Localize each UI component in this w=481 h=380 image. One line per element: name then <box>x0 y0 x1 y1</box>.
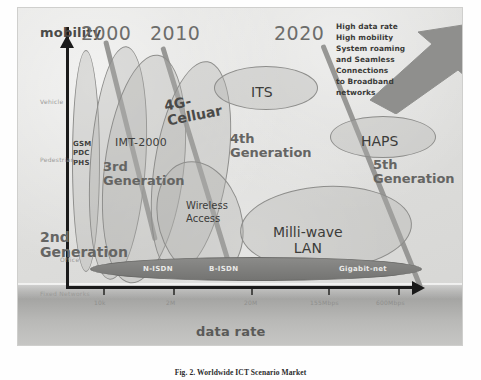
year-label-2020: 2020 <box>274 22 324 44</box>
tech-label-gsm-pdc-phs: GSM PDC PHS <box>73 140 91 168</box>
year-label-2000: 2000 <box>81 22 131 44</box>
x-tick-label-10k: 10k <box>94 299 106 306</box>
x-tick-label-600mbps: 600Mbps <box>376 299 405 306</box>
year-label-2010: 2010 <box>150 22 200 44</box>
x-tick-mark <box>103 289 105 295</box>
fixed-network-label-n-isdn: N-ISDN <box>143 265 173 273</box>
x-tick-label-20m: 20M <box>244 299 257 306</box>
x-tick-mark <box>398 289 400 295</box>
y-tick-label-vehicle: Vehicle <box>40 98 64 105</box>
figure-caption: Fig. 2. Worldwide ICT Scenario Market <box>0 368 481 378</box>
ict-scenario-figure: mobility data rate Vehicle Pedestrian Of… <box>18 8 462 345</box>
fixed-network-label-gigabit-net: Gigabit-net <box>339 265 387 273</box>
callout-text: High data rate High mobility System roam… <box>336 22 405 99</box>
x-tick-mark <box>251 289 253 295</box>
scanned-page: mobility data rate Vehicle Pedestrian Of… <box>0 0 481 380</box>
x-tick-mark <box>328 289 330 295</box>
x-axis-line <box>66 286 414 289</box>
tech-label-its: ITS <box>251 84 273 100</box>
fixed-network-label-b-isdn: B-ISDN <box>209 265 238 273</box>
tech-label-imt-2000: IMT-2000 <box>115 136 167 149</box>
tech-label-haps: HAPS <box>361 133 398 149</box>
generation-label-5th: 5th Generation <box>373 158 455 185</box>
tech-label-milli-wave-lan: Milli-wave LAN <box>273 224 343 256</box>
generation-label-3rd: 3rd Generation <box>103 160 185 187</box>
generation-label-4th: 4th Generation <box>230 132 312 159</box>
tech-label-wireless-access: Wireless Access <box>186 200 228 225</box>
x-tick-mark <box>173 289 175 295</box>
y-tick-label-fixed-networks: Fixed Networks <box>40 290 90 297</box>
x-axis-title: data rate <box>196 324 266 339</box>
x-tick-label-2m: 2M <box>166 299 175 306</box>
x-axis-arrowhead <box>412 281 425 295</box>
fixed-networks-ellipse: N-ISDN B-ISDN Gigabit-net <box>90 257 422 281</box>
y-tick-label-pedestrian: Pedestrian <box>40 156 75 163</box>
x-tick-label-155mbps: 155Mbps <box>310 299 339 306</box>
generation-label-2nd: 2nd Generation <box>40 230 128 259</box>
